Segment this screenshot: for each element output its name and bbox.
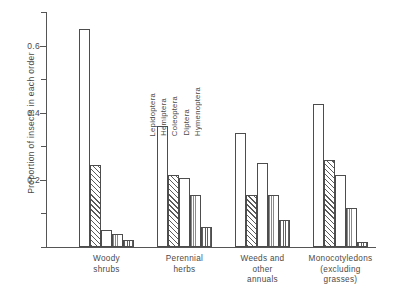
bar <box>123 240 134 247</box>
x-category-label-line: grasses) <box>286 275 393 286</box>
y-tick-0.5 <box>41 79 46 80</box>
legend-item-hemiptera: Hemiptera <box>159 98 168 136</box>
bar <box>357 242 368 247</box>
y-tick-label-text: 0.6 <box>16 41 40 51</box>
bar <box>179 178 190 247</box>
bar <box>90 165 101 247</box>
legend-item-lepidoptera: Lepidoptera <box>148 93 157 136</box>
bar <box>157 126 168 247</box>
y-tick-0.4 <box>40 113 46 114</box>
bar <box>235 133 246 247</box>
y-tick-label: 0.4 <box>0 108 40 118</box>
bar <box>168 175 179 247</box>
bar <box>324 160 335 247</box>
bar <box>279 220 290 247</box>
bar-group <box>79 12 134 247</box>
x-category-label-line: Monocotyledons <box>286 254 393 265</box>
y-tick-0.3 <box>41 146 46 147</box>
bar-group <box>235 12 290 247</box>
bar <box>346 208 357 247</box>
bar <box>190 195 201 247</box>
bar-group <box>313 12 368 247</box>
x-category-label-line: (excluding <box>286 265 393 276</box>
y-tick-0.7 <box>41 12 46 13</box>
legend-item-coleoptera: Coleoptera <box>170 96 179 136</box>
x-axis-line <box>46 247 376 248</box>
legend-item-diptera: Diptera <box>182 109 191 136</box>
x-category-label: Monocotyledons(excludinggrasses) <box>286 254 393 286</box>
bar <box>335 175 346 247</box>
bar <box>112 234 123 247</box>
bar <box>101 230 112 247</box>
bar <box>246 195 257 247</box>
y-tick-0.2 <box>40 180 46 181</box>
legend-item-hymenoptera: Hymenoptera <box>193 87 202 136</box>
y-tick-label-text: 0.2 <box>16 175 40 185</box>
bar <box>257 163 268 247</box>
bar <box>201 227 212 247</box>
bar <box>268 195 279 247</box>
y-tick-0.1 <box>41 213 46 214</box>
y-tick-0.6 <box>40 46 46 47</box>
y-tick-0 <box>41 247 46 248</box>
bar <box>313 104 324 247</box>
bar <box>79 29 90 247</box>
chart-root: Proportion of insects in each order 0.20… <box>0 0 393 304</box>
y-tick-label-text: 0.4 <box>16 108 40 118</box>
y-tick-label: 0.6 <box>0 41 40 51</box>
legend: LepidopteraHemipteraColeopteraDipteraHym… <box>148 58 222 136</box>
y-tick-label: 0.2 <box>0 175 40 185</box>
